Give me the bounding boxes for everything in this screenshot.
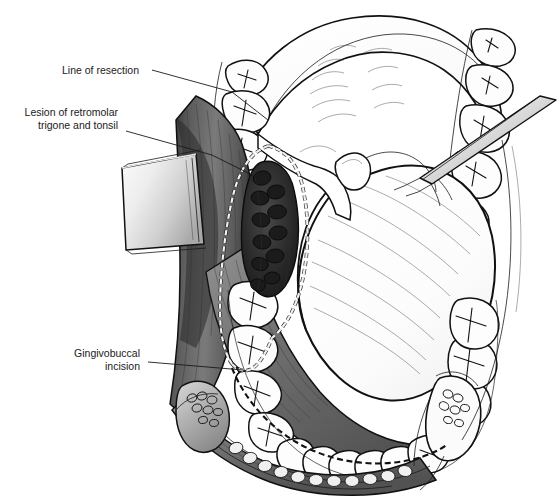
oral-cavity-illustration: Line of resection Lesion of retromolar t… <box>0 0 560 499</box>
label-lesion-line1: Lesion of retromolar <box>25 106 119 118</box>
annotation-labels: Line of resection Lesion of retromolar t… <box>25 64 141 372</box>
label-gingivobuccal-line2: incision <box>105 360 140 372</box>
label-line-of-resection: Line of resection <box>62 64 139 76</box>
cheek-retractor-blade[interactable] <box>122 150 206 254</box>
label-gingivobuccal-line1: Gingivobuccal <box>74 347 140 359</box>
label-lesion-line2: trigone and tonsil <box>38 119 118 131</box>
medical-illustration-figure: Line of resection Lesion of retromolar t… <box>0 0 560 499</box>
retromolar-trigone-lesion <box>241 161 298 297</box>
